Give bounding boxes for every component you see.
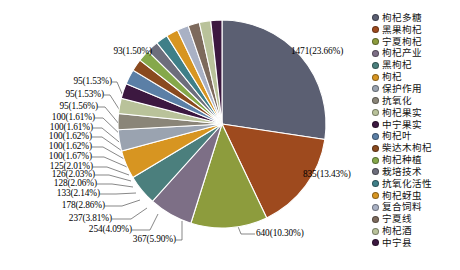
legend-item[interactable]: 栽培技术 [372, 166, 460, 178]
legend-swatch-icon [372, 62, 379, 69]
slice-label-1: 835(13.43%) [303, 170, 351, 179]
legend-swatch-icon [372, 145, 379, 152]
legend-swatch-icon [372, 50, 379, 57]
slice-label-5: 237(3.81%) [46, 214, 112, 223]
legend-swatch-icon [372, 85, 379, 92]
legend-item-label: 宁夏枸杞 [382, 37, 422, 47]
pie-svg [118, 8, 350, 240]
legend-swatch-icon [372, 204, 379, 211]
legend-item[interactable]: 枸杞 [372, 71, 460, 83]
legend-item[interactable]: 中宁县 [372, 237, 460, 249]
legend-item-label: 抗氧化 [382, 96, 412, 106]
legend-item[interactable]: 抗氧化 [372, 95, 460, 107]
slice-label-13: 100(1.62%) [26, 132, 92, 141]
legend-item[interactable]: 枸杞酒 [372, 225, 460, 237]
legend-item-label: 复合饲料 [382, 202, 422, 212]
legend-item[interactable]: 宁夏线 [372, 213, 460, 225]
legend-item-label: 中宁果实 [382, 120, 422, 130]
slice-label-12: 100(1.62%) [26, 142, 92, 151]
legend-item-label: 枸杞果实 [382, 108, 422, 118]
legend-item-label: 枸杞酒 [382, 226, 412, 236]
slice-label-15: 100(1.61%) [29, 113, 95, 122]
slice-label-18: 95(1.53%) [46, 77, 112, 86]
slice-label-8: 128(2.06%) [31, 179, 97, 188]
legend-item-label: 黑果枸杞 [382, 25, 422, 35]
legend-swatch-icon [372, 121, 379, 128]
slice-label-16: 95(1.56%) [32, 102, 98, 111]
slice-label-9: 126(2.03%) [29, 170, 95, 179]
legend-item[interactable]: 中宁果实 [372, 119, 460, 131]
legend-item[interactable]: 枸杞多糖 [372, 12, 460, 24]
pie-slice[interactable] [222, 20, 326, 140]
slice-label-14: 100(1.61%) [27, 123, 93, 132]
legend-item-label: 枸杞 [382, 72, 402, 82]
legend-swatch-icon [372, 157, 379, 164]
legend-item-label: 柴达木枸杞 [382, 143, 432, 153]
legend-item-label: 枸杞蚜虫 [382, 191, 422, 201]
legend-item[interactable]: 抗氧化活性 [372, 178, 460, 190]
pie-chart-figure: 1471(23.66%) 835(13.43%) 640(10.30%) 367… [0, 0, 460, 270]
legend: 枸杞多糖黑果枸杞宁夏枸杞枸杞产业黑枸杞枸杞保护作用抗氧化枸杞果实中宁果实枸杞叶柴… [372, 12, 460, 249]
legend-swatch-icon [372, 109, 379, 116]
legend-item[interactable]: 枸杞产业 [372, 48, 460, 60]
legend-item-label: 枸杞叶 [382, 131, 412, 141]
legend-item[interactable]: 复合饲料 [372, 202, 460, 214]
legend-swatch-icon [372, 180, 379, 187]
legend-swatch-icon [372, 216, 379, 223]
slice-label-3: 367(5.90%) [110, 235, 176, 244]
legend-item-label: 黑枸杞 [382, 60, 412, 70]
legend-swatch-icon [372, 228, 379, 235]
legend-item-label: 枸杞产业 [382, 48, 422, 58]
slice-label-2: 640(10.30%) [256, 229, 304, 238]
slice-label-7: 133(2.14%) [34, 189, 100, 198]
legend-item[interactable]: 黑枸杞 [372, 59, 460, 71]
legend-item[interactable]: 枸杞蚜虫 [372, 190, 460, 202]
legend-swatch-icon [372, 38, 379, 45]
slice-label-10: 125(2.01%) [27, 162, 93, 171]
slice-label-0: 1471(23.66%) [291, 47, 343, 56]
legend-item[interactable]: 枸杞果实 [372, 107, 460, 119]
legend-item-label: 枸杞多糖 [382, 13, 422, 23]
legend-swatch-icon [372, 192, 379, 199]
legend-item-label: 枸杞种植 [382, 155, 422, 165]
slice-label-4: 254(4.09%) [66, 225, 132, 234]
legend-item-label: 保护作用 [382, 84, 422, 94]
legend-swatch-icon [372, 168, 379, 175]
legend-item[interactable]: 枸杞种植 [372, 154, 460, 166]
slice-label-17: 95(1.53%) [38, 90, 104, 99]
legend-item-label: 中宁县 [382, 238, 412, 248]
legend-item[interactable]: 黑果枸杞 [372, 24, 460, 36]
slice-label-19: 93(1.50%) [86, 47, 152, 56]
legend-swatch-icon [372, 74, 379, 81]
legend-item-label: 宁夏线 [382, 214, 412, 224]
pie-graphic [118, 8, 350, 240]
legend-item-label: 栽培技术 [382, 167, 422, 177]
legend-swatch-icon [372, 133, 379, 140]
legend-swatch-icon [372, 239, 379, 246]
slice-label-11: 100(1.67%) [26, 152, 92, 161]
legend-item[interactable]: 柴达木枸杞 [372, 142, 460, 154]
legend-swatch-icon [372, 97, 379, 104]
legend-item-label: 抗氧化活性 [382, 179, 432, 189]
slice-label-6: 178(2.86%) [39, 201, 105, 210]
legend-swatch-icon [372, 14, 379, 21]
legend-swatch-icon [372, 26, 379, 33]
legend-item[interactable]: 宁夏枸杞 [372, 36, 460, 48]
legend-item[interactable]: 保护作用 [372, 83, 460, 95]
legend-item[interactable]: 枸杞叶 [372, 130, 460, 142]
